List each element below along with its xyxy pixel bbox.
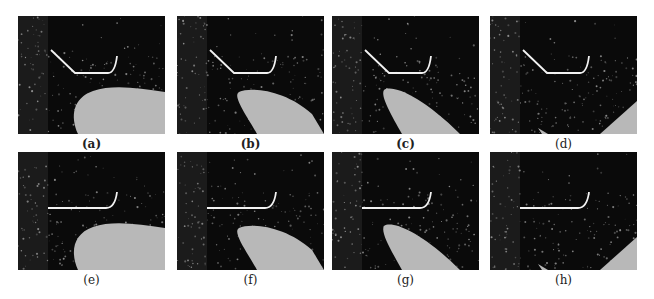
wall-region: [332, 16, 362, 134]
guide-plate: [51, 50, 117, 73]
panel-caption: (b): [177, 137, 324, 151]
panel-g: [332, 152, 479, 270]
rotor-blade: [237, 90, 324, 134]
rotor-blade: [74, 87, 165, 134]
flow-field-image: [490, 152, 637, 270]
flow-field-image: [490, 16, 637, 134]
rotor-blade: [74, 223, 165, 270]
panel-f: [177, 152, 324, 270]
panel-caption: (e): [18, 273, 165, 287]
rotor-blade: [600, 237, 637, 270]
panel-caption: (f): [177, 273, 324, 287]
panel-b: [177, 16, 324, 134]
panel-caption: (a): [18, 137, 165, 151]
wall-region: [18, 16, 48, 134]
panel-c: [332, 16, 479, 134]
flow-field-image: [18, 16, 165, 134]
panel-h: [490, 152, 637, 270]
rotor-blade: [383, 225, 460, 270]
guide-plate: [520, 192, 589, 208]
flow-field-image: [177, 152, 324, 270]
panel-caption: (c): [332, 137, 479, 151]
rotor-blade: [383, 89, 460, 134]
rotor-blade: [237, 226, 324, 270]
guide-plate: [207, 192, 276, 208]
panel-caption: (h): [490, 273, 637, 287]
panel-e: [18, 152, 165, 270]
flow-field-image: [332, 152, 479, 270]
panel-d: [490, 16, 637, 134]
rotor-blade-tip: [538, 264, 548, 270]
panel-caption: (d): [490, 137, 637, 151]
panel-caption: (g): [332, 273, 479, 287]
wall-region: [490, 152, 520, 270]
rotor-blade-tip: [538, 128, 548, 134]
guide-plate: [365, 50, 431, 73]
flow-field-image: [177, 16, 324, 134]
guide-plate: [210, 50, 276, 73]
wall-region: [177, 16, 207, 134]
wall-region: [18, 152, 48, 270]
flow-field-image: [332, 16, 479, 134]
wall-region: [177, 152, 207, 270]
flow-field-image: [18, 152, 165, 270]
guide-plate: [362, 192, 431, 208]
panel-a: [18, 16, 165, 134]
